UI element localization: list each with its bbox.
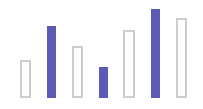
bar-3-outline (72, 46, 83, 98)
bar-6-filled (151, 9, 160, 98)
bar-chart (0, 0, 203, 109)
bar-5-outline (123, 30, 135, 98)
bar-4-filled (99, 67, 108, 98)
bar-1-outline (20, 60, 31, 98)
bar-2-filled (47, 26, 56, 98)
bar-7-outline (176, 18, 187, 98)
